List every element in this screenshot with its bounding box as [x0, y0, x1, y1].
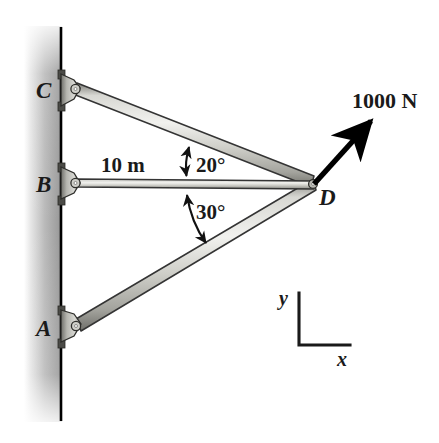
support-C	[58, 70, 80, 111]
support-B-pin-hole	[74, 182, 77, 185]
angle-30-label: 30°	[196, 200, 225, 224]
figure-canvas: 20° 30° 1000 N 10 m C B A D y x	[0, 0, 439, 443]
joint-label-D: D	[318, 185, 336, 210]
member-BD	[76, 179, 314, 189]
joint-label-A: A	[34, 316, 51, 341]
axis-label-x: x	[336, 348, 347, 370]
coordinate-axes: y x	[277, 287, 350, 370]
mechanics-figure: 20° 30° 1000 N 10 m C B A D y x	[0, 0, 439, 443]
support-A-pin-hole	[75, 325, 78, 328]
member-BD-body	[76, 179, 314, 189]
dimension-label-10m: 10 m	[101, 153, 145, 177]
axes-corner	[299, 293, 350, 345]
joint-label-B: B	[35, 172, 51, 197]
force-label: 1000 N	[352, 88, 418, 113]
angle-20-label: 20°	[196, 153, 225, 177]
force-vector-1000N: 1000 N	[314, 88, 418, 184]
support-B	[58, 163, 80, 205]
joint-label-C: C	[36, 78, 52, 103]
support-A	[58, 306, 81, 348]
angle-20-arc	[186, 147, 189, 176]
force-arrow	[314, 121, 371, 184]
support-C-pin-hole	[74, 88, 77, 91]
axis-label-y: y	[277, 287, 288, 310]
